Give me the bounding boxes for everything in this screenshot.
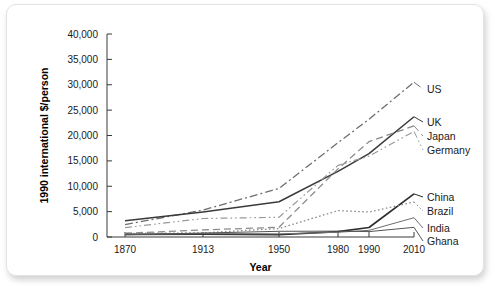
series-leader-uk	[414, 117, 423, 122]
series-label-india: India	[427, 222, 450, 234]
series-label-ghana: Ghana	[427, 235, 459, 247]
y-tick-label: 0	[92, 232, 98, 243]
x-tick-label: 1913	[192, 244, 215, 255]
y-tick-label: 25,000	[67, 105, 98, 116]
y-tick-label: 30,000	[67, 79, 98, 90]
series-label-china: China	[427, 191, 455, 203]
series-label-germany: Germany	[427, 144, 471, 156]
y-tick-label: 5,000	[73, 206, 98, 217]
series-leader-us	[414, 82, 423, 89]
y-tick-label: 35,000	[67, 54, 98, 65]
line-chart: 05,00010,00015,00020,00025,00030,00035,0…	[7, 5, 484, 276]
series-label-brazil: Brazil	[427, 205, 453, 217]
y-tick-label: 15,000	[67, 155, 98, 166]
series-leader-ghana	[414, 227, 423, 241]
y-tick-label: 20,000	[67, 130, 98, 141]
series-label-uk: UK	[427, 116, 442, 128]
series-line-uk	[125, 117, 414, 221]
series-label-us: US	[427, 83, 442, 95]
series-label-japan: Japan	[427, 130, 456, 142]
x-tick-label: 2010	[403, 244, 426, 255]
x-tick-label: 1950	[268, 244, 291, 255]
series-leader-china	[414, 194, 423, 197]
x-tick-label: 1990	[358, 244, 381, 255]
series-line-germany	[125, 131, 414, 227]
y-tick-label: 40,000	[67, 29, 98, 40]
y-axis-title: 1990 international $/person	[38, 68, 50, 204]
x-tick-label: 1980	[327, 244, 350, 255]
x-tick-label: 1870	[114, 244, 137, 255]
y-tick-label: 10,000	[67, 181, 98, 192]
series-leader-india	[414, 218, 423, 228]
chart-card: 05,00010,00015,00020,00025,00030,00035,0…	[6, 4, 484, 276]
chart-axes	[107, 34, 414, 237]
x-axis-title: Year	[249, 261, 271, 273]
series-leader-brazil	[414, 202, 423, 211]
